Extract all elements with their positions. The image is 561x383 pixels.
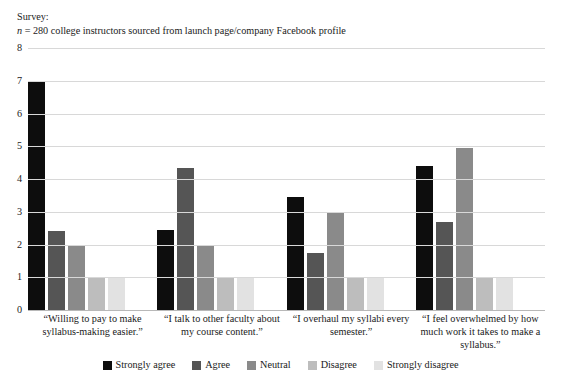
- legend-swatch-icon: [192, 361, 201, 370]
- legend-label: Disagree: [321, 360, 357, 370]
- plot-wrapper: 876543210: [0, 48, 561, 310]
- legend-item[interactable]: Strongly disagree: [374, 360, 459, 370]
- y-axis-tick: 4: [17, 174, 22, 184]
- y-axis-tick: 6: [17, 108, 22, 118]
- gridline: [28, 146, 545, 147]
- gridline: [28, 114, 545, 115]
- y-axis-tick: 8: [17, 43, 22, 53]
- legend-swatch-icon: [374, 361, 383, 370]
- y-axis-tick: 1: [17, 272, 22, 282]
- legend-item[interactable]: Strongly agree: [103, 360, 176, 370]
- category-label: “I overhaul my syllabi every semester.”: [287, 312, 416, 358]
- legend-swatch-icon: [308, 361, 317, 370]
- figure-caption: Survey: n = 280 college instructors sour…: [17, 10, 537, 38]
- legend-label: Strongly disagree: [387, 360, 459, 370]
- bar[interactable]: [48, 231, 65, 310]
- y-axis: 876543210: [0, 48, 28, 310]
- category-labels: “Willing to pay to make syllabus-making …: [28, 312, 545, 358]
- bar[interactable]: [177, 168, 194, 310]
- bar[interactable]: [108, 277, 125, 310]
- bar[interactable]: [157, 230, 174, 310]
- y-axis-tick: 2: [17, 239, 22, 249]
- bar[interactable]: [347, 277, 364, 310]
- gridline: [28, 81, 545, 82]
- legend-label: Agree: [205, 360, 230, 370]
- caption-line-survey: Survey:: [17, 10, 537, 24]
- legend-swatch-icon: [103, 361, 112, 370]
- y-axis-tick: 7: [17, 76, 22, 86]
- category-label: “I talk to other faculty about my course…: [157, 312, 286, 358]
- legend-label: Neutral: [260, 360, 291, 370]
- plot-area: [28, 48, 545, 310]
- gridline: [28, 179, 545, 180]
- legend-item[interactable]: Disagree: [308, 360, 357, 370]
- caption-line-sample: n = 280 college instructors sourced from…: [17, 24, 537, 38]
- chart-legend: Strongly agreeAgreeNeutralDisagreeStrong…: [0, 360, 561, 370]
- bar[interactable]: [476, 277, 493, 310]
- bar[interactable]: [28, 81, 45, 310]
- bar[interactable]: [217, 277, 234, 310]
- gridline: [28, 277, 545, 278]
- bar[interactable]: [307, 253, 324, 310]
- y-axis-tick: 5: [17, 141, 22, 151]
- axis-baseline: [28, 310, 545, 311]
- y-axis-tick: 3: [17, 207, 22, 217]
- survey-bar-chart-figure: Survey: n = 280 college instructors sour…: [0, 0, 561, 383]
- bar[interactable]: [88, 277, 105, 310]
- gridline: [28, 212, 545, 213]
- y-axis-tick: 0: [17, 305, 22, 315]
- gridline: [28, 245, 545, 246]
- bar[interactable]: [436, 222, 453, 310]
- sample-size-text: = 280 college instructors sourced from l…: [22, 25, 346, 36]
- bar[interactable]: [327, 213, 344, 310]
- category-label: “I feel overwhelmed by how much work it …: [416, 312, 545, 358]
- category-label: “Willing to pay to make syllabus-making …: [28, 312, 157, 358]
- bar[interactable]: [367, 277, 384, 310]
- legend-swatch-icon: [247, 361, 256, 370]
- bar[interactable]: [456, 148, 473, 310]
- legend-item[interactable]: Agree: [192, 360, 230, 370]
- bar[interactable]: [237, 277, 254, 310]
- legend-item[interactable]: Neutral: [247, 360, 291, 370]
- legend-label: Strongly agree: [116, 360, 176, 370]
- bar[interactable]: [287, 197, 304, 310]
- gridline: [28, 48, 545, 49]
- bar[interactable]: [416, 166, 433, 310]
- bar[interactable]: [496, 277, 513, 310]
